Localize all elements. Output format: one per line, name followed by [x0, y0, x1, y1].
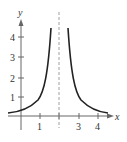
- chart: y x 1 3 4 1 2 3 4: [0, 0, 127, 142]
- x-tick-3: 3: [76, 121, 81, 132]
- y-axis-label: y: [17, 7, 23, 18]
- y-tick-1: 1: [10, 92, 15, 103]
- x-axis-arrow-icon: [107, 114, 114, 119]
- y-tick-3: 3: [10, 52, 15, 63]
- y-tick-4: 4: [10, 32, 15, 43]
- curve-right-branch: [68, 28, 108, 113]
- y-axis-arrow-icon: [19, 19, 24, 26]
- x-tick-1: 1: [37, 121, 42, 132]
- y-tick-2: 2: [10, 73, 15, 84]
- x-axis-label: x: [114, 111, 120, 122]
- x-tick-4: 4: [95, 121, 100, 132]
